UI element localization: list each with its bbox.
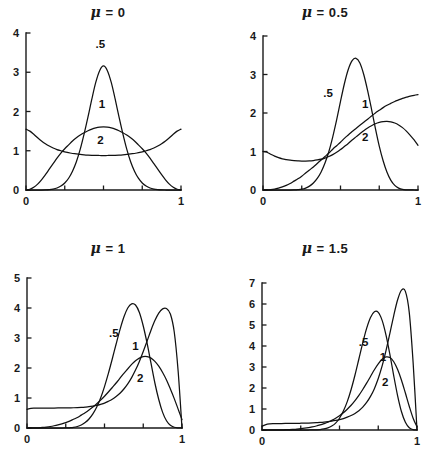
plot-area: 0123401.512 xyxy=(217,4,433,236)
y-tick-label: 1 xyxy=(249,403,255,415)
panel-title-value: = 0.5 xyxy=(312,5,348,20)
curves xyxy=(262,289,417,430)
panel-title-value: = 1.5 xyxy=(312,241,348,256)
x-tick-label: 1 xyxy=(415,195,421,207)
mu-symbol: μ xyxy=(91,4,102,20)
curve-label: 1 xyxy=(99,98,106,110)
panel-mu-0: μ = 00123401.512 xyxy=(0,4,216,236)
density-curve xyxy=(27,308,182,428)
plot-area: 0123401.512 xyxy=(0,4,216,236)
plot-area: 01234501.512 xyxy=(0,240,216,464)
y-tick-label: 2 xyxy=(13,106,19,118)
panel-title-value: = 1 xyxy=(101,241,125,256)
curve-labels: .512 xyxy=(109,327,143,385)
x-tick-label: 1 xyxy=(179,433,185,445)
x-axis: 01 xyxy=(23,186,184,208)
curve-label: 1 xyxy=(362,98,369,110)
y-tick-label: 4 xyxy=(13,27,20,39)
y-tick-label: 4 xyxy=(249,340,256,352)
x-tick-label: 0 xyxy=(259,435,265,447)
x-axis: 01 xyxy=(260,186,421,208)
x-tick-label: 1 xyxy=(414,435,420,447)
x-tick-label: 0 xyxy=(23,195,29,207)
curve-label: 1 xyxy=(380,351,387,363)
y-tick-label: 7 xyxy=(249,277,255,289)
mu-symbol: μ xyxy=(302,4,313,20)
axis-lines xyxy=(27,278,182,428)
panel-mu-1-5: μ = 1.50123456701.512 xyxy=(217,240,433,464)
y-tick-label: 0 xyxy=(13,184,19,196)
y-tick-label: 1 xyxy=(250,146,256,158)
y-tick-label: 2 xyxy=(250,107,256,119)
curves xyxy=(26,66,181,190)
y-tick-label: 2 xyxy=(14,362,20,374)
y-tick-label: 5 xyxy=(14,272,20,284)
panel-title-value: = 0 xyxy=(101,5,125,20)
x-tick-label: 0 xyxy=(24,433,30,445)
panel-title: μ = 1 xyxy=(0,240,216,256)
density-figure-grid: μ = 00123401.512μ = 0.50123401.512μ = 10… xyxy=(0,0,433,464)
y-tick-label: 0 xyxy=(14,422,20,434)
x-axis: 01 xyxy=(259,426,420,448)
y-tick-label: 6 xyxy=(249,298,255,310)
plot-area: 0123456701.512 xyxy=(217,240,433,464)
density-curve xyxy=(27,356,182,428)
panel-title: μ = 0 xyxy=(0,4,216,20)
y-tick-label: 4 xyxy=(250,30,257,42)
y-tick-label: 3 xyxy=(249,361,255,373)
panel-mu-1: μ = 101234501.512 xyxy=(0,240,216,464)
density-curve xyxy=(262,289,417,430)
curve-label: .5 xyxy=(109,327,119,339)
density-curve xyxy=(26,66,181,190)
density-curve xyxy=(263,121,418,161)
panel-title: μ = 0.5 xyxy=(217,4,433,20)
y-tick-label: 3 xyxy=(13,66,19,78)
curve-label: .5 xyxy=(96,38,106,50)
y-axis: 01234 xyxy=(13,27,31,196)
mu-symbol: μ xyxy=(302,240,313,256)
y-tick-label: 1 xyxy=(13,145,19,157)
curve-labels: .512 xyxy=(359,336,389,388)
curve-labels: .512 xyxy=(96,38,106,146)
y-tick-label: 0 xyxy=(249,424,255,436)
curve-labels: .512 xyxy=(323,87,369,143)
panel-title: μ = 1.5 xyxy=(217,240,433,256)
curves xyxy=(27,304,182,428)
curve-label: 1 xyxy=(132,340,139,352)
curves xyxy=(263,58,418,190)
curve-label: 2 xyxy=(362,131,368,143)
curve-label: 2 xyxy=(137,372,143,384)
y-tick-label: 5 xyxy=(249,319,255,331)
axis-lines xyxy=(263,36,418,190)
mu-symbol: μ xyxy=(91,240,102,256)
density-curve xyxy=(263,95,418,190)
curve-label: 2 xyxy=(382,376,388,388)
x-tick-label: 0 xyxy=(260,195,266,207)
curve-label: .5 xyxy=(359,336,369,348)
curve-label: 2 xyxy=(97,134,103,146)
axis-lines xyxy=(26,33,181,190)
curve-label: .5 xyxy=(323,87,333,99)
y-tick-label: 0 xyxy=(250,184,256,196)
y-axis: 01234567 xyxy=(249,277,267,436)
y-tick-label: 3 xyxy=(14,332,20,344)
y-tick-label: 4 xyxy=(14,302,21,314)
x-tick-label: 1 xyxy=(178,195,184,207)
panel-mu-0-5: μ = 0.50123401.512 xyxy=(217,4,433,236)
y-tick-label: 1 xyxy=(14,392,20,404)
density-curve xyxy=(263,58,418,190)
y-axis: 012345 xyxy=(14,272,32,434)
y-tick-label: 2 xyxy=(249,382,255,394)
y-tick-label: 3 xyxy=(250,69,256,81)
y-axis: 01234 xyxy=(250,30,268,196)
axis-lines xyxy=(262,283,417,430)
density-curve xyxy=(262,311,417,430)
